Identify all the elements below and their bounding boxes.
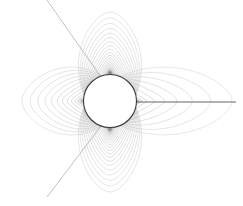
contour-plot-canvas <box>0 0 243 206</box>
central-circle <box>84 75 137 128</box>
figure-root <box>0 0 243 206</box>
